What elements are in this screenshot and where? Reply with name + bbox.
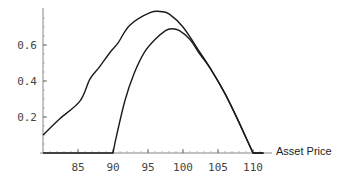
x-axis-label: Asset Price <box>276 145 332 157</box>
lower-curve-line <box>43 29 264 153</box>
y-axis: 0.20.40.6 <box>17 8 47 153</box>
y-tick-label: 0.6 <box>17 39 37 52</box>
x-tick-label: 100 <box>173 161 193 174</box>
series-lines <box>43 11 264 153</box>
x-tick-label: 90 <box>106 161 119 174</box>
x-tick-label: 105 <box>208 161 228 174</box>
y-tick-label: 0.4 <box>17 75 37 88</box>
option-value-chart: 0.20.40.6 859095100105110 Asset Price <box>0 0 346 180</box>
x-tick-label: 95 <box>141 161 154 174</box>
upper-curve-line <box>43 11 264 153</box>
x-tick-label: 110 <box>243 161 263 174</box>
y-tick-label: 0.2 <box>17 111 37 124</box>
x-tick-label: 85 <box>71 161 84 174</box>
